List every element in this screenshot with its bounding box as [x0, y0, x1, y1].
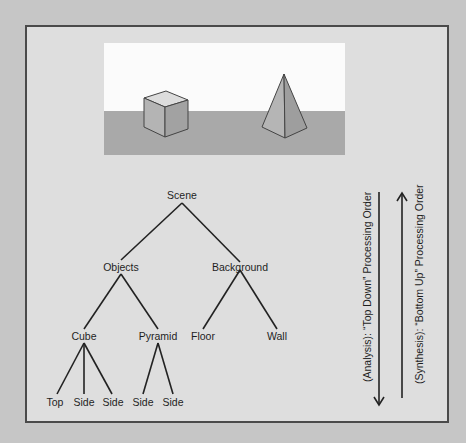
node-cube: Cube: [71, 330, 96, 342]
node-pyramid-side-1: Side: [132, 396, 153, 408]
synthesis-label: (Synthesis): “Bottom Up” Processing Orde…: [413, 184, 425, 384]
node-background: Background: [212, 261, 268, 273]
node-top: Top: [47, 396, 64, 408]
tree-edges: [0, 0, 466, 443]
analysis-label: (Analysis): “Top Down” Processing Order: [361, 192, 373, 382]
node-cube-side-1: Side: [73, 396, 94, 408]
node-wall: Wall: [267, 330, 287, 342]
node-scene: Scene: [167, 189, 197, 201]
node-floor: Floor: [191, 330, 215, 342]
node-cube-side-2: Side: [102, 396, 123, 408]
top-down-arrow: [374, 192, 384, 405]
node-pyramid-side-2: Side: [162, 396, 183, 408]
bottom-up-arrow: [397, 193, 407, 398]
node-pyramid: Pyramid: [139, 330, 178, 342]
node-objects: Objects: [103, 261, 139, 273]
